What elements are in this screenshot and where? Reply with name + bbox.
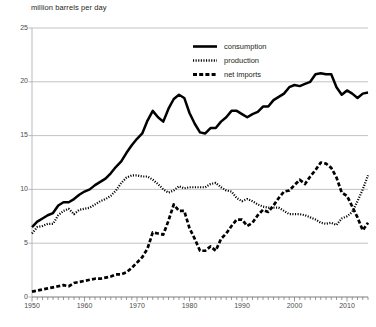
chart-legend: consumption production net imports <box>193 41 267 83</box>
legend-label-net-imports: net imports <box>224 70 261 79</box>
x-axis-tick-label: 1980 <box>182 302 198 309</box>
series-line-consumption <box>32 73 368 227</box>
legend-item-net-imports: net imports <box>193 69 267 80</box>
legend-item-consumption: consumption <box>193 41 267 52</box>
legend-key-dotted-icon <box>193 56 217 65</box>
series-line-production <box>32 175 368 233</box>
x-axis-tick-label: 1950 <box>24 302 40 309</box>
x-axis-tick-label: 1990 <box>234 302 250 309</box>
legend-key-solid-icon <box>193 42 217 51</box>
legend-label-production: production <box>224 56 259 65</box>
x-axis-tick-label: 1960 <box>77 302 93 309</box>
x-axis-tick-label: 2010 <box>339 302 355 309</box>
series-line-net-imports <box>32 163 368 292</box>
legend-item-production: production <box>193 55 267 66</box>
plot-area <box>0 0 376 327</box>
legend-key-dashed-icon <box>193 70 217 79</box>
x-axis-tick-label: 2000 <box>287 302 303 309</box>
x-axis-tick-label: 1970 <box>129 302 145 309</box>
chart-container: million barrels per day 0510152025 19501… <box>0 0 376 327</box>
legend-label-consumption: consumption <box>224 42 267 51</box>
